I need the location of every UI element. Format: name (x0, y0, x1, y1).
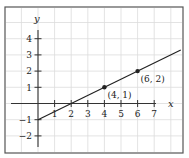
data-point (135, 69, 139, 73)
y-axis-label: y (33, 13, 40, 24)
data-point (102, 85, 106, 89)
y-tick-label: 2 (26, 66, 32, 76)
y-tick-label: 3 (26, 50, 32, 60)
x-tick-label: 7 (151, 109, 157, 119)
y-tick-label: −2 (19, 131, 32, 141)
x-tick-label: 2 (68, 109, 74, 119)
line-chart: 12345674321−1−2 (4, 1)(6, 2) x y (0, 0, 189, 158)
y-tick-label: −1 (19, 115, 32, 125)
x-tick-label: 3 (85, 109, 91, 119)
x-tick-label: 5 (118, 109, 124, 119)
point-label: (6, 2) (141, 74, 165, 84)
y-tick-label: 4 (26, 34, 32, 44)
x-tick-label: 4 (102, 109, 108, 119)
x-tick-label: 6 (135, 109, 141, 119)
point-label: (4, 1) (107, 90, 131, 100)
x-axis-label: x (168, 98, 174, 109)
y-tick-label: 1 (26, 83, 32, 93)
